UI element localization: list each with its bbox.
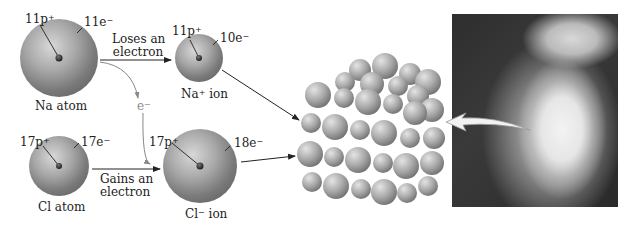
na-atom-protons: 11p+ <box>25 13 55 26</box>
na-ion-protons: 11p+ <box>172 25 202 38</box>
na-ion-electrons: 10e− <box>220 32 249 45</box>
na-ion-label: Na+ ion <box>181 88 228 101</box>
loses-electron-label: Loses anelectron <box>112 33 164 59</box>
na-atom-electrons: 11e− <box>84 16 113 29</box>
nacl-formation-diagram: 11p+ 11e− Na atom Loses anelectron 11p+ … <box>0 0 634 231</box>
transferred-electron: e− <box>137 100 151 113</box>
cl-ion-label: Cl− ion <box>185 208 227 221</box>
cl-atom-electrons: 17e− <box>81 136 110 149</box>
cl-ion-electrons: 18e− <box>234 137 263 150</box>
photo-pointer-arrow <box>0 0 634 231</box>
cl-atom-protons: 17p+ <box>20 136 50 149</box>
cl-ion-protons: 17p+ <box>149 136 179 149</box>
cl-atom-label: Cl atom <box>38 201 85 214</box>
gains-electron-label: Gains anelectron <box>100 173 150 199</box>
na-atom-label: Na atom <box>35 100 87 113</box>
